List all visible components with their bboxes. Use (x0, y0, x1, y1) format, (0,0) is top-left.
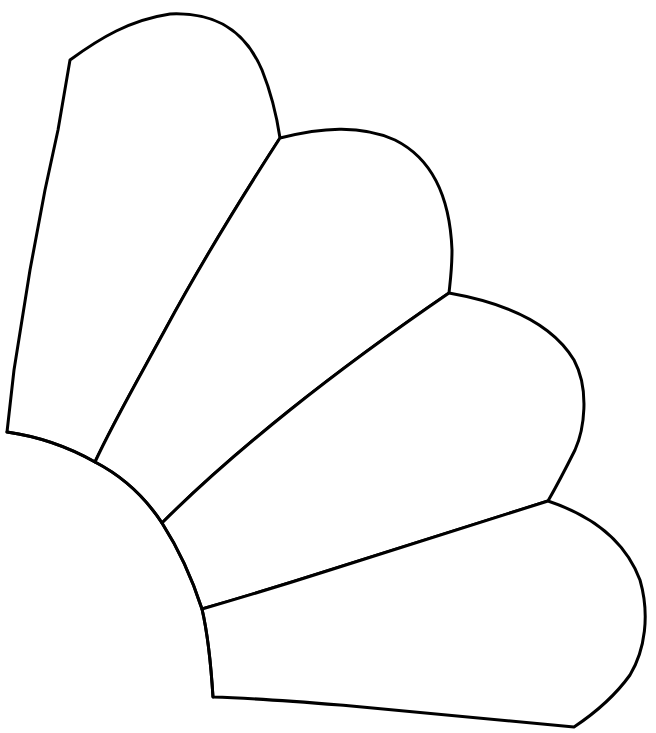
fan-pattern-drawing (0, 0, 656, 733)
